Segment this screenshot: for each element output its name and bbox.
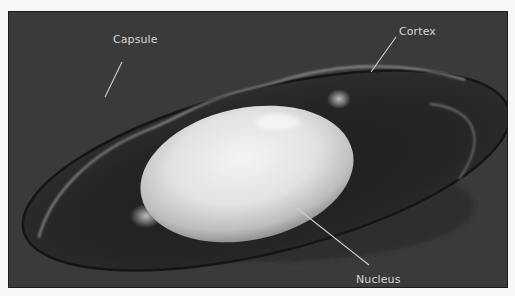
capsule-label: Capsule — [113, 33, 158, 46]
lens-diagram: Capsule Cortex Nucleus — [8, 11, 508, 288]
cortex-label: Cortex — [399, 25, 436, 38]
nucleus-label: Nucleus — [356, 273, 400, 286]
capsule-leader-line — [105, 62, 122, 97]
reflection-glow — [327, 89, 351, 109]
lens-illustration — [9, 12, 508, 288]
